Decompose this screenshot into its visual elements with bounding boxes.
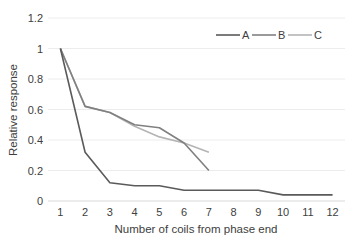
legend-label: B: [278, 29, 285, 41]
y-axis-ticks: 00.20.40.60.811.2: [28, 12, 43, 207]
x-tick-label: 8: [231, 206, 237, 218]
x-tick-label: 2: [82, 206, 88, 218]
legend-item-a: A: [216, 29, 250, 41]
legend-label: A: [242, 29, 250, 41]
legend: ABC: [216, 29, 322, 41]
data-series: [60, 49, 332, 195]
x-axis-ticks: 123456789101112: [57, 206, 338, 218]
x-tick-label: 7: [206, 206, 212, 218]
x-tick-label: 11: [302, 206, 313, 218]
x-tick-label: 10: [277, 206, 289, 218]
y-tick-label: 1: [37, 43, 43, 55]
y-tick-label: 1.2: [28, 12, 43, 24]
legend-item-c: C: [288, 29, 322, 41]
gridlines: [48, 18, 345, 201]
x-tick-label: 3: [107, 206, 113, 218]
y-tick-label: 0.2: [28, 165, 43, 177]
x-tick-label: 1: [57, 206, 63, 218]
x-tick-label: 6: [181, 206, 187, 218]
legend-item-b: B: [252, 29, 285, 41]
line-chart: 00.20.40.60.811.2 123456789101112 ABC Nu…: [0, 0, 358, 247]
x-tick-label: 4: [132, 206, 138, 218]
y-axis-label: Relative response: [7, 64, 19, 156]
legend-label: C: [314, 29, 322, 41]
x-tick-label: 12: [327, 206, 339, 218]
x-axis-label: Number of coils from phase end: [115, 223, 278, 235]
y-tick-label: 0.6: [28, 104, 43, 116]
y-tick-label: 0.8: [28, 73, 43, 85]
x-tick-label: 9: [255, 206, 261, 218]
x-tick-label: 5: [156, 206, 162, 218]
y-tick-label: 0.4: [28, 134, 43, 146]
y-tick-label: 0: [37, 195, 43, 207]
series-line-a: [60, 49, 332, 195]
